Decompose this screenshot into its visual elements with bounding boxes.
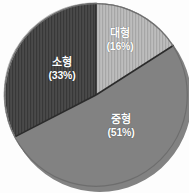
pie-chart-svg	[0, 0, 189, 193]
pie-chart: 대형 (16%) 중형 (51%) 소형 (33%)	[0, 0, 189, 193]
